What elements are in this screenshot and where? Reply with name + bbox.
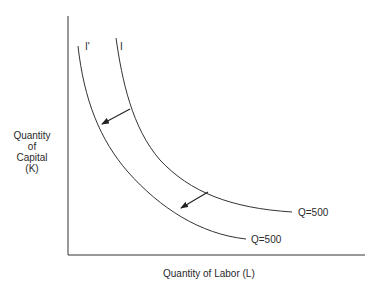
y-axis-label: Quantity of Capital (K) [4, 130, 60, 174]
isoquant-i-prime [78, 46, 246, 239]
x-axis-label: Quantity of Labor (L) [163, 268, 255, 279]
y-axis-label-line1: Quantity [4, 130, 60, 141]
q-label-upper: Q=500 [298, 207, 328, 218]
y-axis-label-line3: Capital [4, 152, 60, 163]
shift-arrow-upper [102, 109, 130, 124]
curve-label-i-prime: I' [85, 41, 90, 52]
isoquant-i [116, 38, 292, 212]
q-label-lower: Q=500 [251, 234, 281, 245]
y-axis-label-line4: (K) [4, 163, 60, 174]
shift-arrow-lower [181, 192, 208, 208]
y-axis-label-line2: of [4, 141, 60, 152]
curve-label-i: I [120, 41, 123, 52]
